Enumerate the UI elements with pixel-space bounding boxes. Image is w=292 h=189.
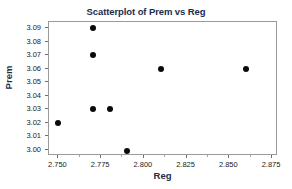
- x-tick-label: 2.800: [123, 160, 163, 169]
- x-tick-mark: [228, 155, 229, 158]
- x-tick-mark: [57, 155, 58, 158]
- x-axis: 2.7502.7752.8002.8252.8502.875: [0, 0, 292, 189]
- x-minor-tick-mark: [250, 155, 251, 157]
- x-tick-mark: [143, 155, 144, 158]
- x-tick-label: 2.875: [251, 160, 291, 169]
- x-minor-tick-mark: [207, 155, 208, 157]
- x-tick-mark: [100, 155, 101, 158]
- x-tick-label: 2.825: [166, 160, 206, 169]
- x-tick-mark: [271, 155, 272, 158]
- x-tick-label: 2.775: [80, 160, 120, 169]
- x-minor-tick-mark: [164, 155, 165, 157]
- scatterplot-figure: Scatterplot of Prem vs Reg 3.093.083.073…: [0, 0, 292, 189]
- x-tick-label: 2.750: [37, 160, 77, 169]
- x-minor-tick-mark: [79, 155, 80, 157]
- x-axis-title: Reg: [48, 170, 277, 181]
- x-tick-mark: [186, 155, 187, 158]
- x-tick-label: 2.850: [208, 160, 248, 169]
- x-minor-tick-mark: [121, 155, 122, 157]
